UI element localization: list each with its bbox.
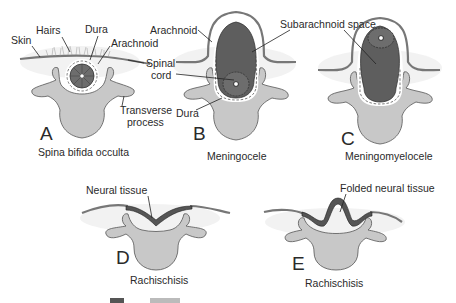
label-dura: Dura (85, 23, 108, 35)
label-arachnoid-b: Arachnoid (150, 24, 197, 36)
label-arachnoid-a: Arachnoid (111, 37, 158, 49)
label-skin: Skin (11, 34, 32, 46)
label-process: process (127, 116, 164, 128)
panel-b: Arachnoid Spinal cord Dura B Meningocele (128, 12, 296, 162)
label-neural-tissue: Neural tissue (86, 184, 147, 196)
label-cord: cord (151, 69, 172, 81)
label-folded-neural-tissue: Folded neural tissue (340, 182, 435, 194)
spina-bifida-diagram: Skin Hairs Dura Arachnoid Transverse pro… (0, 0, 456, 303)
panel-e: Folded neural tissue E Rachischisis (264, 182, 435, 289)
panel-letter-c: C (341, 128, 355, 149)
panel-a: Skin Hairs Dura Arachnoid Transverse pro… (11, 23, 172, 158)
panel-letter-b: B (193, 123, 206, 144)
caption-a: Spina bifida occulta (38, 146, 129, 158)
caption-e: Rachischisis (305, 277, 363, 289)
panel-d: Neural tissue D Rachischisis (80, 184, 230, 286)
label-hairs: Hairs (36, 24, 61, 36)
panel-letter-a: A (40, 123, 53, 144)
label-transverse: Transverse (120, 104, 172, 116)
caption-b: Meningocele (207, 150, 267, 162)
panel-letter-e: E (292, 253, 305, 274)
figure-caption-fragment (110, 298, 124, 303)
caption-c: Meningomyelocele (345, 150, 433, 162)
panel-letter-d: D (116, 247, 130, 268)
label-dura-b: Dura (176, 107, 199, 119)
figure-caption-fragment-2 (150, 298, 180, 303)
label-subarachnoid: Subarachnoid space (280, 18, 376, 30)
label-spinal: Spinal (146, 57, 175, 69)
caption-d: Rachischisis (130, 274, 188, 286)
